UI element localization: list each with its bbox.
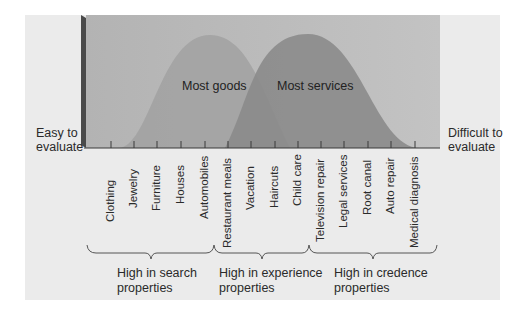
left-label-line1: Easy to [36,126,83,140]
brace-search [87,245,214,259]
item-child-care: Child care [291,154,303,206]
item-automobiles: Automobiles [198,156,210,219]
goods-curve-label: Most goods [182,79,247,93]
item-vacation: Vacation [244,166,256,210]
group-braces [87,245,437,259]
group-credence-label: High in credence properties [334,266,428,296]
item-clothing: Clothing [104,180,116,222]
group-search-line2: properties [117,281,197,296]
item-television-repair: Television repair [314,159,326,242]
item-legal-services: Legal services [337,154,349,228]
left-label-line2: evaluate [36,140,83,154]
difficult-to-evaluate-label: Difficult to evaluate [448,126,503,154]
item-root-canal: Root canal [361,160,373,215]
group-credence-line2: properties [334,281,428,296]
item-restaurant-meals: Restaurant meals [221,158,233,248]
right-label-line1: Difficult to [448,126,503,140]
item-furniture: Furniture [150,165,162,211]
right-label-line2: evaluate [448,140,503,154]
item-haircuts: Haircuts [268,166,280,208]
services-curve-label: Most services [277,79,353,93]
group-experience-line2: properties [219,281,323,296]
group-experience-label: High in experience properties [219,266,323,296]
group-search-label: High in search properties [117,266,197,296]
item-auto-repair: Auto repair [384,158,396,214]
group-search-line1: High in search [117,266,197,281]
item-jewelry: Jewelry [127,169,139,208]
item-houses: Houses [174,165,186,204]
item-medical-diagnosis: Medical diagnosis [408,157,420,248]
group-credence-line1: High in credence [334,266,428,281]
group-experience-line1: High in experience [219,266,323,281]
easy-to-evaluate-label: Easy to evaluate [36,126,83,154]
